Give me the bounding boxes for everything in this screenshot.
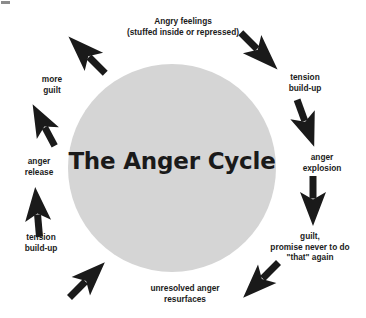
unresolved-anger-line1: unresolved anger [130,283,240,294]
guilt-promise-line2: promise never to do [256,242,364,253]
arrow-down-icon [300,176,326,226]
stage-label-angry-feelings: Angry feelings (stuffed inside or repres… [96,16,270,37]
tension-build-up-left-line1: tension [5,232,77,243]
tension-build-up-left-line2: build-up [5,243,77,254]
more-guilt-line2: guilt [22,85,82,96]
stage-label-unresolved-anger: unresolved anger resurfaces [130,283,240,304]
arrow-up-right-icon [22,98,66,151]
more-guilt-line1: more [22,74,82,85]
angry-feelings-rest: feelings [178,16,212,26]
arrow-down-icon [285,95,327,151]
stage-label-tension-build-up-right: tension build-up [269,72,341,93]
stage-label-anger-release: anger release [6,156,72,177]
anger-explosion-line2: explosion [285,163,359,174]
arrow-up-left-icon [60,253,114,307]
anger-explosion-line1: anger [285,152,359,163]
arrow-up-icon [22,186,52,238]
unresolved-anger-line2: resurfaces [130,294,240,305]
stage-label-anger-explosion: anger explosion [285,152,359,173]
stage-label-tension-build-up-left: tension build-up [5,232,77,253]
stage-label-more-guilt: more guilt [22,74,82,95]
guilt-promise-line3: "that" again [256,252,364,263]
tension-build-up-right-line2: build-up [269,83,341,94]
anger-cycle-diagram: The Anger Cycle [0,0,366,318]
anger-release-line1: anger [6,156,72,167]
diagram-title: The Anger Cycle [68,150,276,173]
stage-label-guilt-promise: guilt, promise never to do "that" again [256,231,364,263]
angry-feelings-subtext: (stuffed inside or repressed) [96,27,270,38]
anger-release-line2: release [6,167,72,178]
tension-build-up-right-line1: tension [269,72,341,83]
scan-artifact [1,1,10,4]
angry-feelings-bold-word: Angry [154,16,178,26]
guilt-promise-line1: guilt, [256,231,364,242]
